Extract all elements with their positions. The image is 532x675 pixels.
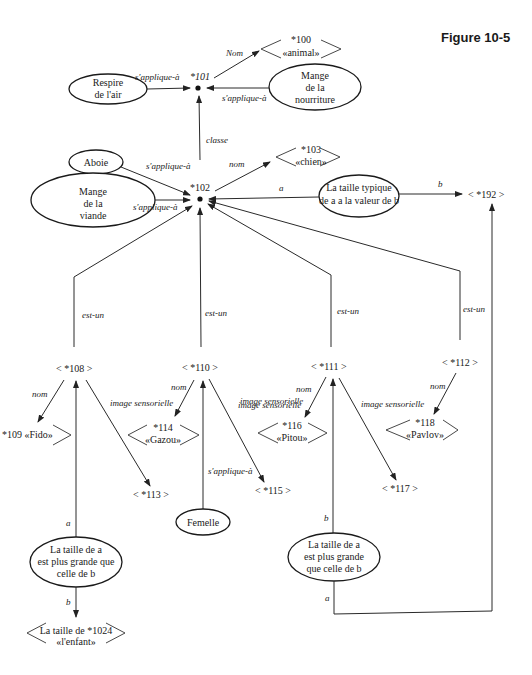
chevron-left-103	[276, 148, 296, 166]
edge-112-estun-102	[209, 201, 460, 340]
node-plus2-line2: est plus grande	[304, 551, 365, 562]
node-nourriture-line1: Mange	[301, 70, 329, 81]
edge-label-estun-112: est-un	[463, 304, 485, 314]
node-114-line2: «Gazou»	[145, 434, 181, 445]
chevron-right-100	[321, 40, 341, 58]
node-1024-line2: «l'enfant»	[56, 636, 96, 647]
edge-label-estun-110: est-un	[205, 308, 227, 318]
node-nourriture-line3: nourriture	[295, 94, 336, 105]
node-plus2-line3: que celle de b	[306, 563, 361, 574]
node-plus1-line1: La taille de a	[50, 544, 102, 555]
chevron-right-109	[53, 425, 71, 445]
edge-102-classe-101	[199, 96, 200, 160]
edge-label-sapplique-nourriture: s'applique-à	[222, 93, 267, 103]
edge-108-image-113	[86, 380, 150, 486]
node-102-id: *102	[190, 182, 210, 193]
chevron-right-114	[180, 425, 199, 445]
chevron-right-116	[308, 423, 327, 443]
edge-label-sapplique-aboie: s'applique-à	[146, 161, 191, 171]
edge-label-img-108: image sensorielle	[110, 398, 173, 408]
node-109-fido: *109 «Fido»	[2, 429, 53, 440]
node-viande-line1: Mange	[79, 186, 107, 197]
node-114-line1: *114	[153, 422, 173, 433]
edge-112-nom-118	[434, 373, 456, 414]
edge-label-nom-101: Nom	[225, 48, 244, 58]
node-116-line1: *116	[282, 420, 302, 431]
node-respire-line1: Respire	[93, 77, 124, 88]
node-192: < *192 >	[468, 189, 505, 200]
node-viande-line3: viande	[80, 210, 107, 221]
edge-label-classe: classe	[206, 135, 228, 145]
edge-label-a-typique: a	[279, 183, 284, 193]
node-viande-line2: de la	[83, 198, 103, 209]
node-plus2-line1: La taille de a	[308, 539, 360, 550]
node-100-line2: «animal»	[282, 47, 319, 58]
node-plus1-line2: est plus grande que	[38, 556, 115, 567]
node-nourriture-line2: de la	[305, 82, 325, 93]
node-103-line2: «chien»	[295, 156, 327, 167]
node-taille-typique-line1: La taille typique	[326, 182, 392, 193]
edge-label-a-plus2: a	[325, 593, 330, 603]
edge-label-estun-108: est-un	[82, 310, 104, 320]
edge-typique-a-102	[209, 197, 319, 199]
chevron-left-100	[261, 40, 281, 58]
edge-108-nom-109	[38, 380, 64, 422]
chevron-right-118	[443, 420, 458, 440]
node-111: < *111 >	[311, 361, 347, 372]
edge-label-nom-111: nom	[296, 384, 312, 394]
edge-label-nom-108: nom	[32, 389, 48, 399]
edge-label-nom-110: nom	[171, 382, 187, 392]
node-respire-line2: de l'air	[94, 89, 122, 100]
edge-111-nom-116	[305, 377, 326, 417]
edge-111-estun-102	[208, 204, 331, 347]
edge-label-sapplique-femelle: s'applique-à	[208, 466, 253, 476]
edge-label-nom-102: nom	[229, 159, 245, 169]
node-aboie-line1: Aboie	[84, 157, 109, 168]
node-118-line2: «Pavlov»	[406, 429, 444, 440]
node-118-line1: *118	[415, 417, 435, 428]
node-100-line1: *100	[291, 34, 311, 45]
edge-label-sapplique-viande: s'applique-à	[133, 202, 178, 212]
edge-label-estun-111: est-un	[337, 306, 359, 316]
edge-label-nom-112: nom	[430, 381, 446, 391]
node-113: < *113 >	[133, 489, 169, 500]
chevron-left-116	[258, 423, 278, 443]
edge-label-a-plus1: a	[66, 518, 71, 528]
edge-label-img-111: image sensorielle	[240, 396, 303, 406]
node-116-line2: «Pitou»	[276, 432, 307, 443]
node-108: < *108 >	[56, 363, 93, 374]
edge-label-img-111b: image sensorielle	[361, 399, 424, 409]
edge-label-b-typique: b	[438, 179, 443, 189]
node-103-line1: *103	[301, 144, 321, 155]
edge-label-sapplique-respire: s'applique-à	[135, 72, 180, 82]
node-101-id: *101	[190, 71, 210, 82]
node-102-dot	[197, 196, 202, 201]
edge-label-b-plus1: b	[66, 597, 71, 607]
edge-110-estun-102	[200, 208, 201, 347]
edge-respire-to-101	[147, 88, 190, 89]
edge-label-b-plus2: b	[324, 513, 329, 523]
semantic-network-diagram: *101 Respire de l'air s'applique-à *100 …	[0, 0, 532, 675]
node-115: < *115 >	[255, 485, 291, 496]
node-112: < *112 >	[442, 357, 478, 368]
node-plus1-line3: celle de b	[57, 568, 95, 579]
node-101-dot	[195, 85, 200, 90]
figure-title: Figure 10-5	[441, 30, 510, 45]
node-femelle-line1: Femelle	[187, 517, 220, 528]
node-117: < *117 >	[382, 483, 418, 494]
node-110: < *110 >	[182, 362, 218, 373]
node-taille-typique-line2: de a a la valeur de b	[319, 195, 399, 206]
node-1024-line1: La taille de *1024	[40, 625, 112, 636]
